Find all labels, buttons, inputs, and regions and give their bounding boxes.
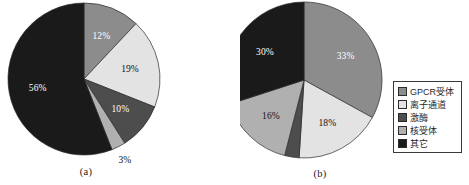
- pie-slice-label: 12%: [92, 31, 110, 41]
- legend-swatch-kinase: [398, 113, 407, 122]
- legend-swatch-gpcr: [398, 87, 407, 96]
- legend-label-other: 其它: [410, 139, 428, 149]
- legend-swatch-nuclear-receptor: [398, 126, 407, 135]
- legend-label-gpcr: GPCR受体: [410, 87, 454, 97]
- pie-chart-b: 33%18%3%16%30% (b): [240, 0, 400, 185]
- legend-item-ion-channel: 离子通道: [398, 98, 458, 111]
- caption-b: (b): [240, 168, 400, 179]
- legend-item-nuclear-receptor: 核受体: [398, 124, 458, 137]
- legend-item-other: 其它: [398, 137, 458, 150]
- legend-swatch-other: [398, 139, 407, 148]
- chart-legend: GPCR受体 离子通道 激酶 核受体 其它: [393, 81, 462, 153]
- pie-slice-label: 19%: [121, 64, 139, 74]
- pie-slice-label: 33%: [337, 51, 355, 61]
- pie-slice-label: 18%: [318, 118, 336, 128]
- pie-slice-label: 10%: [111, 104, 129, 114]
- legend-item-gpcr: GPCR受体: [398, 85, 458, 98]
- legend-swatch-ion-channel: [398, 100, 407, 109]
- legend-item-kinase: 激酶: [398, 111, 458, 124]
- pie-chart-a: 12%19%10%3%56% (a): [6, 0, 166, 185]
- legend-label-ion-channel: 离子通道: [410, 100, 446, 110]
- caption-a: (a): [6, 166, 166, 177]
- legend-label-kinase: 激酶: [410, 113, 428, 123]
- pie-slice-label: 16%: [262, 111, 280, 121]
- pie-b-svg: 33%18%3%16%30%: [240, 0, 400, 165]
- pie-slice-label: 30%: [256, 47, 274, 57]
- pie-slice-label: 3%: [118, 155, 131, 165]
- pie-chart-figure: 12%19%10%3%56% (a) 33%18%3%16%30% (b) GP…: [0, 0, 469, 185]
- pie-slice-label: 56%: [29, 83, 47, 93]
- legend-label-nuclear-receptor: 核受体: [410, 126, 437, 136]
- pie-a-svg: 12%19%10%3%56%: [6, 0, 166, 165]
